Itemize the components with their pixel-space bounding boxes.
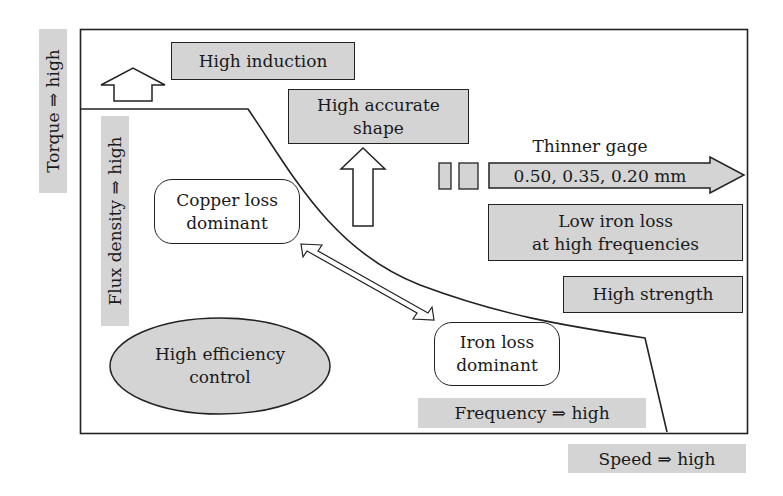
- torque-axis-label: Torque ⇒ high: [39, 29, 67, 193]
- up-arrow-icon-shape: [341, 148, 385, 226]
- copper-loss-region: Copper loss dominant: [154, 179, 300, 244]
- low-iron-loss-box: Low iron loss at high frequencies: [488, 204, 743, 261]
- high-induction-box: High induction: [171, 42, 355, 80]
- iron-loss-region: Iron loss dominant: [434, 322, 560, 386]
- frequency-axis-label: Frequency ⇒ high: [418, 398, 646, 428]
- gage-medium-icon: [459, 163, 478, 189]
- thinner-gage-label: Thinner gage: [530, 135, 650, 157]
- high-efficiency-control-label: High efficiency control: [110, 340, 330, 392]
- flux-density-axis-label: Flux density ⇒ high: [101, 116, 129, 326]
- up-arrow-icon-induction: [101, 68, 165, 101]
- high-strength-box: High strength: [563, 276, 743, 313]
- speed-axis-label: Speed ⇒ high: [568, 444, 746, 473]
- gage-thick-icon: [439, 163, 451, 189]
- thinner-gage-values: 0.50, 0.35, 0.20 mm: [490, 164, 710, 188]
- high-accurate-shape-box: High accurate shape: [288, 89, 469, 144]
